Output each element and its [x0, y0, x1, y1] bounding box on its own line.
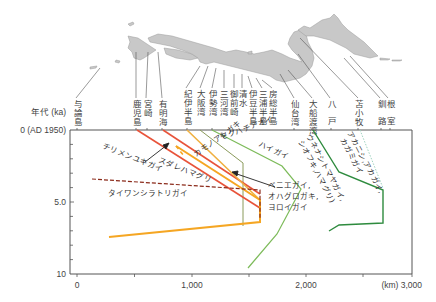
x-tick-2000: 2,000 [295, 280, 317, 290]
loc-miyazaki: 宮崎 [142, 99, 152, 118]
label-chirimenyuki: チリメンユキガイ [101, 141, 164, 174]
loc-kagoshima: 鹿児島 [131, 99, 141, 127]
y-tick-0: 0 (AD 1950) [20, 125, 66, 135]
label-haigai: ハイガイ [257, 139, 290, 162]
loc-shimizu: 清水 [237, 89, 247, 108]
x-tick-1000: 1,000 [181, 280, 203, 290]
loc-sendai: 仙台湾 [289, 99, 299, 127]
y-tick-10: 10 [57, 269, 67, 279]
loc-yoron: 与論島 [72, 100, 82, 127]
label-sudarehamaguri: スダレハマグリ [157, 155, 213, 185]
loc-ise: 伊勢湾 [207, 89, 217, 117]
map-leader-lines [76, 38, 388, 98]
loc-mikawa: 三河湾 [218, 90, 228, 117]
shell-distribution-chart: 与論島 鹿児島 宮崎 有明海 紀伊半島 大阪湾 伊勢湾 三河湾 御前崎 清水 伊… [0, 0, 436, 302]
x-tick-0: 0 [75, 280, 80, 290]
label-benie-1: ベニエガイ, [268, 180, 310, 190]
loc-kii: 紀伊半島 [182, 89, 192, 126]
y-ticks [70, 144, 74, 259]
y-tick-5: 5.0 [54, 197, 66, 207]
loc-ariake: 有明海 [157, 99, 167, 127]
label-benie-3: ヨロイガイ [268, 202, 308, 212]
loc-osaka: 大阪湾 [195, 89, 205, 117]
label-benie-2: オハグロガキ, [268, 191, 318, 201]
label-kamonoashigaki: カモノアシガキ [191, 118, 243, 158]
loc-tomakomai: 苫小牧 [353, 99, 363, 127]
x-tick-3000-unit: (km) 3,000 [381, 280, 422, 290]
japan-map [90, 14, 402, 82]
label-taiwanshiratori: タイワンシラトリガイ [108, 188, 188, 198]
y-axis-title: 年代 (ka) [31, 107, 66, 117]
